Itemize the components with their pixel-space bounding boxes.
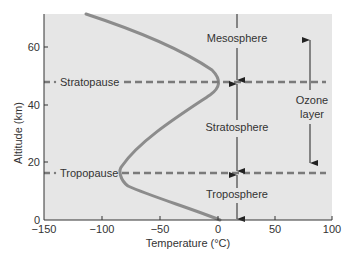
x-tick-neg150: −150 (32, 223, 57, 235)
troposphere-label: Troposphere (206, 188, 268, 200)
ozone-label-line2: layer (300, 108, 324, 120)
stratosphere-label: Stratosphere (206, 121, 269, 133)
y-tick-40: 40 (28, 99, 40, 111)
stratopause-label: Stratopause (60, 76, 119, 88)
x-tick-neg50: −50 (151, 223, 170, 235)
y-tick-60: 60 (28, 41, 40, 53)
y-tick-20: 20 (28, 156, 40, 168)
atmosphere-temperature-chart: Stratopause Tropopause Mesosphere Strato… (0, 0, 348, 264)
x-tick-100: 100 (323, 223, 341, 235)
plot-area (44, 14, 332, 220)
mesosphere-label: Mesosphere (207, 32, 268, 44)
y-axis-label: Altitude (km) (12, 102, 24, 164)
x-tick-neg100: −100 (90, 223, 115, 235)
tropopause-label: Tropopause (60, 167, 118, 179)
x-tick-50: 50 (269, 223, 281, 235)
x-tick-0: 0 (215, 223, 221, 235)
ozone-label-line1: Ozone (296, 94, 328, 106)
x-axis-label: Temperature (°C) (146, 237, 230, 249)
